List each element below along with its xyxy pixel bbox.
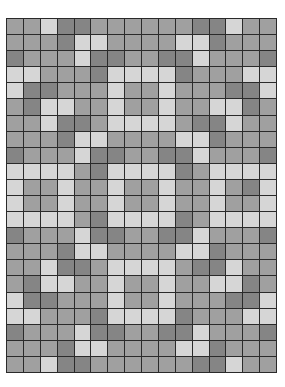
grid-cell bbox=[108, 83, 124, 98]
grid-cell bbox=[193, 67, 209, 82]
grid-cell bbox=[41, 293, 57, 308]
grid-cell bbox=[125, 67, 141, 82]
grid-cell bbox=[58, 35, 74, 50]
grid-cell bbox=[75, 83, 91, 98]
grid-cell bbox=[142, 148, 158, 163]
grid-cell bbox=[243, 132, 259, 147]
grid-cell bbox=[41, 325, 57, 340]
grid-cell bbox=[210, 67, 226, 82]
grid-cell bbox=[7, 341, 23, 356]
grid-cell bbox=[41, 132, 57, 147]
grid-cell bbox=[260, 19, 276, 34]
grid-cell bbox=[243, 276, 259, 291]
grid-cell bbox=[159, 164, 175, 179]
grid-cell bbox=[210, 116, 226, 131]
grid-cell bbox=[142, 293, 158, 308]
grid-cell bbox=[75, 116, 91, 131]
grid-cell bbox=[193, 51, 209, 66]
grid-cell bbox=[210, 276, 226, 291]
grid-cell bbox=[159, 341, 175, 356]
grid-cell bbox=[7, 228, 23, 243]
grid-cell bbox=[58, 164, 74, 179]
grid-cell bbox=[91, 244, 107, 259]
grid-cell bbox=[142, 116, 158, 131]
grid-cell bbox=[159, 325, 175, 340]
grid-cell bbox=[75, 164, 91, 179]
grid-cell bbox=[75, 341, 91, 356]
grid-cell bbox=[210, 212, 226, 227]
grid-cell bbox=[260, 260, 276, 275]
grid-cell bbox=[41, 341, 57, 356]
grid-cell bbox=[210, 228, 226, 243]
grid-cell bbox=[193, 180, 209, 195]
grid-cell bbox=[260, 51, 276, 66]
grid-cell bbox=[243, 67, 259, 82]
grid-cell bbox=[176, 196, 192, 211]
grid-cell bbox=[176, 325, 192, 340]
grid-cell bbox=[91, 276, 107, 291]
grid-cell bbox=[210, 164, 226, 179]
grid-cell bbox=[210, 260, 226, 275]
grid-cell bbox=[24, 196, 40, 211]
grid-cell bbox=[159, 260, 175, 275]
grid-cell bbox=[91, 99, 107, 114]
grid-cell bbox=[226, 357, 242, 372]
grid-cell bbox=[159, 180, 175, 195]
grid-cell bbox=[41, 67, 57, 82]
grid-cell bbox=[7, 309, 23, 324]
grid-cell bbox=[142, 357, 158, 372]
grid-cell bbox=[108, 341, 124, 356]
grid-cell bbox=[91, 132, 107, 147]
grid-cell bbox=[58, 357, 74, 372]
grid-cell bbox=[210, 35, 226, 50]
grid-cell bbox=[210, 99, 226, 114]
grid-cell bbox=[260, 309, 276, 324]
grid-cell bbox=[260, 228, 276, 243]
grid-cell bbox=[41, 196, 57, 211]
grid-cell bbox=[24, 148, 40, 163]
grid-cell bbox=[75, 99, 91, 114]
grid-cell bbox=[75, 357, 91, 372]
grid-cell bbox=[91, 293, 107, 308]
grid-cell bbox=[142, 325, 158, 340]
grid-cell bbox=[91, 164, 107, 179]
grid-cell bbox=[210, 83, 226, 98]
grid-cell bbox=[125, 196, 141, 211]
grid-cell bbox=[142, 83, 158, 98]
grid-cell bbox=[24, 228, 40, 243]
grid-cell bbox=[226, 51, 242, 66]
grid-cell bbox=[226, 164, 242, 179]
grid-cell bbox=[58, 244, 74, 259]
grid-cell bbox=[24, 35, 40, 50]
grid-cell bbox=[58, 148, 74, 163]
grid-cell bbox=[193, 325, 209, 340]
grid-cell bbox=[7, 293, 23, 308]
grid-cell bbox=[193, 341, 209, 356]
grid-cell bbox=[125, 228, 141, 243]
grid-cell bbox=[226, 67, 242, 82]
grid-cell bbox=[7, 132, 23, 147]
grid-cell bbox=[159, 212, 175, 227]
grid-cell bbox=[41, 51, 57, 66]
grid-cell bbox=[125, 148, 141, 163]
grid-cell bbox=[108, 196, 124, 211]
grid-cell bbox=[75, 260, 91, 275]
grid-cell bbox=[193, 276, 209, 291]
grid-cell bbox=[193, 244, 209, 259]
grid-cell bbox=[176, 19, 192, 34]
grid-cell bbox=[7, 35, 23, 50]
grid-cell bbox=[159, 244, 175, 259]
grid-cell bbox=[24, 83, 40, 98]
grid-cell bbox=[226, 116, 242, 131]
grid-cell bbox=[210, 357, 226, 372]
grid-cell bbox=[125, 19, 141, 34]
grid-cell bbox=[159, 116, 175, 131]
grid-cell bbox=[108, 51, 124, 66]
grid-cell bbox=[176, 180, 192, 195]
grid-cell bbox=[7, 180, 23, 195]
grid-cell bbox=[108, 99, 124, 114]
grid-cell bbox=[7, 148, 23, 163]
grid-cell bbox=[226, 83, 242, 98]
grid-cell bbox=[226, 180, 242, 195]
grid-cell bbox=[243, 212, 259, 227]
